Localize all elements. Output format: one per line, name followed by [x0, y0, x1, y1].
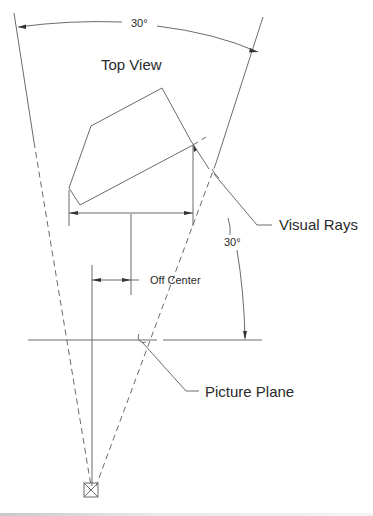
side-arc-upper	[228, 218, 230, 235]
side-angle-label: 30°	[224, 236, 241, 248]
off-center-arrow-left	[92, 278, 101, 282]
top-angle-label: 30°	[131, 17, 148, 29]
off-center-arrow-right	[122, 278, 131, 282]
picture-plane-leader-hook	[138, 334, 146, 343]
picture-plane-label: Picture Plane	[205, 383, 294, 400]
visual-rays-leader-hook	[212, 169, 219, 178]
visual-rays-label: Visual Rays	[279, 216, 358, 233]
side-arc-lower	[237, 250, 245, 338]
top-view-title: Top View	[101, 56, 162, 73]
visual-rays-leader	[214, 174, 257, 225]
object-polygon-lower	[69, 145, 193, 205]
off-center-label: Off Center	[150, 274, 201, 286]
arc-arrowhead-right	[249, 48, 258, 53]
perspective-diagram: 30° Top View Off Center Visual Rays 30° …	[0, 0, 373, 516]
left-visual-ray-dashed	[34, 142, 91, 486]
right-visual-ray-dashed	[96, 163, 216, 486]
picture-plane-leader	[142, 342, 186, 391]
width-dim-arrow-right	[184, 211, 193, 215]
left-visual-ray-solid	[14, 13, 34, 142]
object-polygon-upper	[69, 88, 209, 188]
width-dim-arrow-left	[69, 211, 78, 215]
arc-arrowhead-left	[18, 25, 26, 30]
top-angle-arc-right	[157, 26, 258, 52]
station-point-icon	[84, 483, 98, 497]
top-angle-arc-left	[18, 22, 122, 27]
side-arc-arrowhead	[243, 331, 247, 340]
corner-extension	[193, 137, 206, 145]
